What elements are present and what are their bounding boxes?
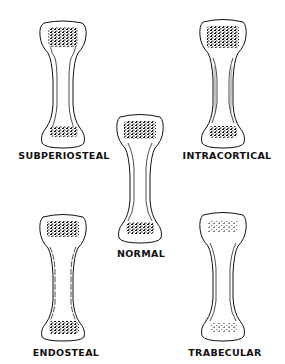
label-endosteal: ENDOSTEAL [28, 347, 104, 358]
bone-normal [115, 113, 165, 249]
bone-trabecular [198, 211, 248, 347]
label-normal: NORMAL [112, 248, 170, 259]
bone-intracortical [198, 18, 248, 154]
label-intracortical: INTRACORTICAL [172, 150, 282, 161]
bone-endosteal-drawing [38, 213, 88, 343]
label-trabecular: TRABECULAR [180, 347, 270, 358]
bone-subperiosteal [38, 20, 88, 154]
bone-normal-drawing [115, 113, 165, 245]
bone-trabecular-drawing [198, 211, 248, 343]
bone-subperiosteal-drawing [38, 20, 88, 150]
label-subperiosteal: SUBPERIOSTEAL [10, 150, 118, 161]
bone-endosteal [38, 213, 88, 347]
bone-intracortical-drawing [198, 18, 248, 150]
